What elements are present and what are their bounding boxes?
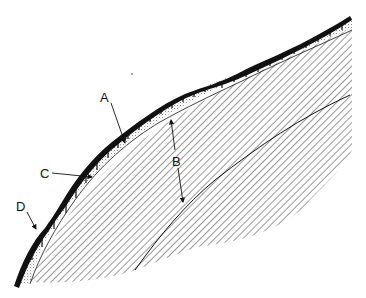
speck [131,73,133,75]
label-c: C [40,167,49,180]
label-a: A [100,91,109,104]
label-b: B [172,155,181,168]
cross-section-diagram [0,0,366,298]
arrow-d [27,212,36,229]
label-d: D [16,200,25,213]
arrow-a [111,103,125,143]
hatched-bedrock-region [30,28,352,283]
